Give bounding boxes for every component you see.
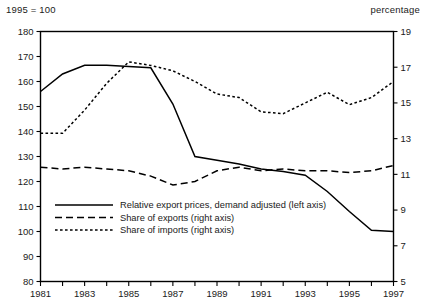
legend-label-share_of_imports: Share of imports (right axis) bbox=[120, 225, 234, 235]
x-tick-label: 1983 bbox=[74, 288, 95, 299]
series-line bbox=[41, 165, 394, 185]
x-tick-label: 1989 bbox=[206, 288, 227, 299]
right-tick-label: 19 bbox=[401, 26, 412, 37]
line-chart-plot: 8090100110120130140150160170180 57911131… bbox=[0, 0, 428, 307]
left-tick-label: 100 bbox=[18, 226, 34, 237]
x-axis-ticks: 198119831985198719891991199319951997 bbox=[30, 282, 404, 299]
left-tick-label: 130 bbox=[18, 151, 34, 162]
left-tick-label: 90 bbox=[23, 251, 34, 262]
left-tick-label: 160 bbox=[18, 76, 34, 87]
x-tick-label: 1995 bbox=[339, 288, 360, 299]
right-tick-label: 5 bbox=[401, 276, 406, 287]
right-tick-label: 9 bbox=[401, 204, 406, 215]
plot-frame bbox=[41, 32, 394, 282]
x-tick-label: 1993 bbox=[295, 288, 316, 299]
right-axis-ticks: 5791113151719 bbox=[394, 26, 412, 287]
chart-legend: Relative export prices, demand adjusted … bbox=[55, 200, 326, 235]
x-tick-label: 1997 bbox=[383, 288, 404, 299]
series-line bbox=[41, 62, 394, 133]
left-tick-label: 80 bbox=[23, 276, 34, 287]
left-axis-ticks: 8090100110120130140150160170180 bbox=[18, 26, 41, 287]
right-tick-label: 17 bbox=[401, 62, 412, 73]
x-tick-label: 1981 bbox=[30, 288, 51, 299]
right-tick-label: 11 bbox=[401, 169, 411, 180]
x-tick-label: 1985 bbox=[118, 288, 139, 299]
left-tick-label: 170 bbox=[18, 51, 34, 62]
left-tick-label: 110 bbox=[18, 201, 33, 212]
chart-container: 1995 = 100 percentage 809010011012013014… bbox=[0, 0, 428, 307]
left-tick-label: 180 bbox=[18, 26, 34, 37]
x-tick-label: 1991 bbox=[251, 288, 272, 299]
right-tick-label: 15 bbox=[401, 97, 412, 108]
left-tick-label: 120 bbox=[18, 176, 34, 187]
right-tick-label: 13 bbox=[401, 133, 412, 144]
x-tick-label: 1987 bbox=[162, 288, 183, 299]
legend-label-relative_export_prices: Relative export prices, demand adjusted … bbox=[120, 200, 326, 210]
right-tick-label: 7 bbox=[401, 240, 406, 251]
left-tick-label: 150 bbox=[18, 101, 34, 112]
legend-label-share_of_exports: Share of exports (right axis) bbox=[120, 213, 234, 223]
left-tick-label: 140 bbox=[18, 126, 34, 137]
